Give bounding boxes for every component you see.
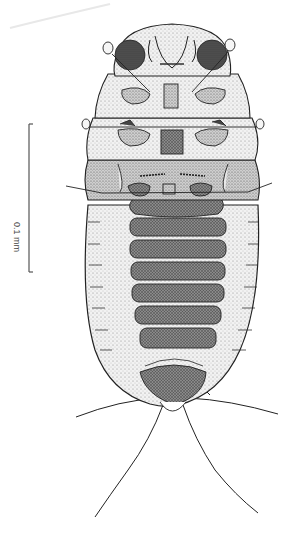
scale-bar <box>29 124 33 272</box>
scale-bar-label: 0.1 mm <box>12 222 22 252</box>
right-eye <box>197 40 227 70</box>
specimen-illustration <box>0 0 296 537</box>
anal-lobe <box>160 402 186 411</box>
paper-smudge <box>10 4 110 28</box>
left-eye <box>115 40 145 70</box>
